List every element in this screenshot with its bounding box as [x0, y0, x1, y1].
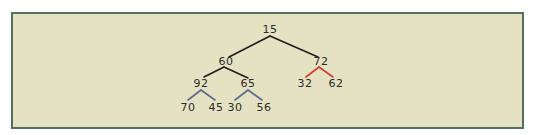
- node-72: 72: [314, 55, 329, 68]
- edge-92-45: [201, 90, 215, 100]
- edge-65-30: [235, 90, 248, 100]
- node-32: 32: [298, 77, 313, 90]
- edge-60-92: [204, 67, 224, 77]
- edge-92-70: [188, 90, 201, 100]
- node-60: 60: [219, 55, 234, 68]
- node-62: 62: [329, 77, 344, 90]
- edge-15-60: [229, 36, 270, 57]
- node-30: 30: [228, 101, 243, 114]
- node-70: 70: [181, 101, 196, 114]
- edge-72-62: [319, 67, 333, 77]
- tree-diagram: 15 60 72 92 65 32 62 70 45 30 56: [0, 0, 535, 135]
- edge-15-72: [270, 36, 318, 57]
- node-45: 45: [209, 101, 224, 114]
- node-92: 92: [194, 77, 209, 90]
- edge-65-56: [248, 90, 262, 100]
- node-56: 56: [257, 101, 272, 114]
- node-65: 65: [241, 77, 256, 90]
- edge-72-32: [306, 67, 319, 77]
- node-15: 15: [263, 23, 278, 36]
